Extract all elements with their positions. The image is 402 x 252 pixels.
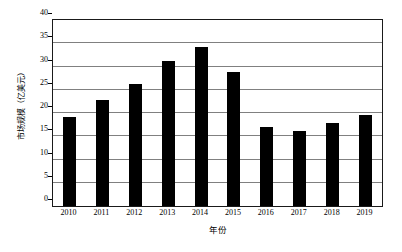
y-tick-label: 10 — [40, 149, 48, 157]
plot-area — [52, 19, 383, 207]
y-tick-label: 40 — [40, 9, 48, 17]
x-axis-title: 年份 — [52, 226, 383, 235]
bar — [359, 115, 372, 206]
x-tick-label: 2012 — [126, 209, 142, 217]
x-tick-label: 2010 — [60, 209, 76, 217]
y-tick-label: 30 — [40, 56, 48, 64]
y-tick-label: 20 — [40, 102, 48, 110]
x-tick-label: 2015 — [225, 209, 241, 217]
x-axis-tick-labels: 2010201120122013201420152016201720182019 — [52, 209, 383, 223]
bar — [129, 84, 142, 206]
bar — [195, 47, 208, 206]
bar — [227, 72, 240, 206]
x-tick-label: 2018 — [324, 209, 340, 217]
y-axis-title-text: 市场规模（亿美元） — [18, 68, 26, 140]
y-tick-label: 35 — [40, 32, 48, 40]
x-tick-label: 2014 — [192, 209, 208, 217]
y-axis-tick-labels: 0510152025303540 — [26, 13, 48, 207]
bar-chart: 市场规模（亿美元） 0510152025303540 2010201120122… — [0, 0, 402, 252]
bar — [293, 131, 306, 206]
y-tick-label: 25 — [40, 79, 48, 87]
bars-layer — [53, 20, 382, 206]
bar — [63, 117, 76, 206]
x-tick-label: 2011 — [93, 209, 109, 217]
x-tick-label: 2019 — [357, 209, 373, 217]
bar — [326, 123, 339, 206]
x-tick-label: 2013 — [159, 209, 175, 217]
y-tick-mark — [48, 13, 52, 14]
bar — [162, 61, 175, 206]
x-tick-label: 2016 — [258, 209, 274, 217]
x-tick-label: 2017 — [291, 209, 307, 217]
y-tick-label: 15 — [40, 125, 48, 133]
bar — [260, 127, 273, 206]
bar — [96, 100, 109, 206]
